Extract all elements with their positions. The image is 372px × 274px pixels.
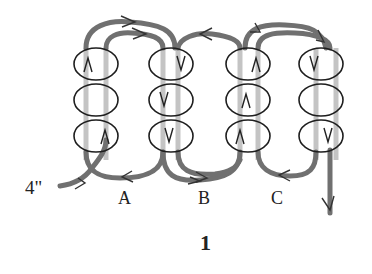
column-label-c: C bbox=[271, 188, 283, 208]
bead bbox=[149, 84, 193, 116]
bead bbox=[149, 48, 193, 80]
bead bbox=[74, 84, 118, 116]
down-arrow-icon bbox=[165, 128, 173, 142]
up-arrow-icon bbox=[242, 94, 250, 108]
figure-number: 1 bbox=[200, 230, 211, 255]
bead-grid bbox=[74, 48, 343, 152]
bead bbox=[226, 120, 270, 152]
diagram-canvas: 4" A B C 1 bbox=[0, 0, 372, 274]
dark-thread-path bbox=[60, 22, 330, 213]
down-arrow-icon bbox=[324, 128, 332, 142]
column-label-b: B bbox=[198, 188, 210, 208]
bead bbox=[226, 48, 270, 80]
bead-direction-marks bbox=[84, 56, 332, 144]
bead bbox=[74, 120, 118, 152]
bead bbox=[74, 48, 118, 80]
start-length-label: 4" bbox=[25, 177, 42, 198]
column-label-a: A bbox=[118, 188, 131, 208]
